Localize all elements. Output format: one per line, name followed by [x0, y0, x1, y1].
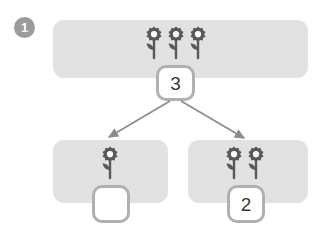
arrow-to-right-part	[181, 101, 244, 138]
flower-icon	[143, 24, 165, 60]
whole-number-box[interactable]: 3	[156, 65, 195, 101]
arrow-to-left-part	[109, 101, 170, 137]
worksheet-canvas: 1 3	[0, 0, 320, 235]
part-group-right-flowers	[218, 144, 272, 180]
flower-icon	[165, 24, 187, 60]
flower-icon	[99, 144, 121, 180]
flower-icon	[245, 144, 267, 180]
step-number-badge: 1	[14, 17, 35, 38]
part-right-answer-box[interactable]: 2	[227, 185, 265, 223]
flower-icon	[187, 24, 209, 60]
whole-group-flowers	[133, 24, 219, 60]
part-left-answer-box[interactable]	[92, 185, 130, 223]
part-group-left-flowers	[97, 144, 123, 180]
flower-icon	[223, 144, 245, 180]
